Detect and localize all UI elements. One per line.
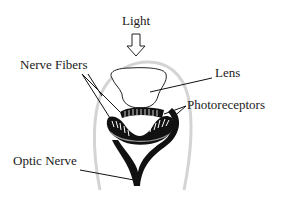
label-light: Light — [122, 14, 150, 27]
photoreceptor-band-upper — [120, 107, 164, 118]
label-lens: Lens — [215, 66, 240, 79]
label-optic-nerve: Optic Nerve — [13, 154, 77, 167]
label-photoreceptors: Photoreceptors — [187, 98, 265, 111]
lens — [111, 68, 166, 108]
light-arrow-icon — [127, 34, 145, 56]
label-nerve-fibers: Nerve Fibers — [20, 58, 88, 71]
